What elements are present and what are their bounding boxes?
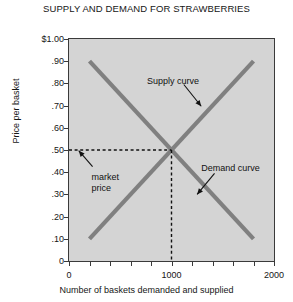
y-tick-label: .60: [18, 123, 64, 133]
y-tick-label: .90: [18, 56, 64, 66]
y-tick-label: .80: [18, 78, 64, 88]
y-tick-label: 0: [18, 256, 64, 266]
chart-figure: SUPPLY AND DEMAND FOR STRAWBERRIES Price…: [0, 0, 293, 302]
y-tick-label: $1.00: [18, 34, 64, 44]
supply-curve-label-text: Supply curve: [147, 76, 199, 86]
y-tick-label: .50: [18, 145, 64, 155]
y-tick-label: .10: [18, 234, 64, 244]
plot-svg: [69, 39, 274, 261]
demand-curve-label: Demand curve: [201, 163, 260, 174]
y-tick-label: .40: [18, 167, 64, 177]
x-tick-label: 1000: [161, 270, 181, 280]
x-axis-title: Number of baskets demanded and supplied: [0, 285, 293, 295]
market-price-label: market price: [92, 172, 120, 194]
y-tick-label: .30: [18, 189, 64, 199]
plot-area: Supply curve Demand curve market price: [68, 38, 275, 262]
demand-curve-label-text: Demand curve: [201, 163, 260, 173]
x-tick-label: 2000: [264, 270, 284, 280]
y-tick-label: .20: [18, 212, 64, 222]
y-tick-label: .70: [18, 101, 64, 111]
market-price-arrow: [79, 151, 93, 167]
chart-title: SUPPLY AND DEMAND FOR STRAWBERRIES: [0, 3, 293, 14]
x-tick-label: 0: [66, 270, 71, 280]
market-price-line2: price: [92, 183, 120, 194]
supply-curve-arrow: [184, 85, 201, 107]
supply-curve-label: Supply curve: [147, 76, 199, 87]
market-price-line1: market: [92, 172, 120, 183]
